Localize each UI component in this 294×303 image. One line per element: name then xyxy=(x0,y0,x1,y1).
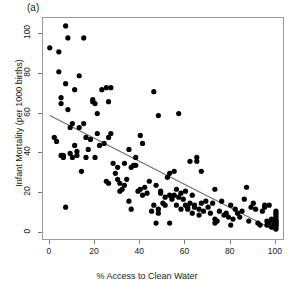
data-point xyxy=(176,111,181,116)
data-point xyxy=(133,155,138,160)
x-axis-label: % Access to Clean Water xyxy=(0,271,294,281)
data-point xyxy=(86,147,91,152)
data-point xyxy=(147,179,152,184)
data-point xyxy=(156,211,161,216)
data-point xyxy=(108,85,113,90)
panel-label: (a) xyxy=(27,2,39,13)
data-point xyxy=(104,85,109,90)
y-tick-label: 0 xyxy=(22,220,32,242)
data-point xyxy=(106,181,111,186)
data-point xyxy=(129,207,134,212)
data-point xyxy=(206,205,211,210)
data-point xyxy=(215,218,220,223)
data-point xyxy=(58,95,63,100)
data-point xyxy=(167,220,172,225)
data-point xyxy=(77,73,82,78)
data-point xyxy=(190,211,195,216)
data-point xyxy=(77,125,82,130)
data-point xyxy=(178,207,183,212)
data-point xyxy=(56,49,61,54)
data-point xyxy=(140,193,145,198)
data-point xyxy=(199,169,204,174)
y-tick-label: 40 xyxy=(22,140,32,162)
y-tick xyxy=(38,152,42,153)
x-tick-label: 80 xyxy=(215,246,245,256)
x-tick-label: 20 xyxy=(79,246,109,256)
data-point xyxy=(56,69,61,74)
y-tick xyxy=(38,73,42,74)
data-point xyxy=(101,141,106,146)
data-point xyxy=(61,153,66,158)
data-point xyxy=(228,222,233,227)
data-point xyxy=(174,187,179,192)
data-point xyxy=(167,171,172,176)
y-tick-label: 100 xyxy=(22,21,32,43)
data-point xyxy=(181,197,186,202)
x-tick xyxy=(275,240,276,244)
plot-area xyxy=(42,17,284,240)
data-point xyxy=(70,155,75,160)
data-point xyxy=(253,207,258,212)
x-tick xyxy=(49,240,50,244)
x-tick-label: 100 xyxy=(260,246,290,256)
data-point xyxy=(92,155,97,160)
data-point xyxy=(153,220,158,225)
y-tick xyxy=(38,33,42,34)
data-point xyxy=(88,137,93,142)
data-point xyxy=(153,183,158,188)
data-point xyxy=(185,207,190,212)
y-tick xyxy=(38,232,42,233)
data-point xyxy=(140,141,145,146)
data-point xyxy=(237,215,242,220)
data-point xyxy=(178,191,183,196)
data-point xyxy=(219,199,224,204)
data-point xyxy=(217,209,222,214)
data-point xyxy=(47,45,52,50)
data-point xyxy=(187,201,192,206)
data-point xyxy=(111,161,116,166)
data-point xyxy=(156,113,161,118)
data-point xyxy=(196,213,201,218)
data-point xyxy=(72,87,77,92)
data-point xyxy=(144,191,149,196)
data-point xyxy=(246,218,251,223)
data-point xyxy=(126,147,131,152)
data-point xyxy=(108,131,113,136)
data-point xyxy=(192,205,197,210)
data-point xyxy=(81,35,86,40)
data-point xyxy=(95,131,100,136)
data-point xyxy=(149,209,154,214)
data-point xyxy=(133,163,138,168)
data-point xyxy=(65,107,70,112)
data-point xyxy=(142,185,147,190)
data-point xyxy=(54,139,59,144)
data-point xyxy=(226,215,231,220)
y-tick xyxy=(38,192,42,193)
data-point xyxy=(74,153,79,158)
data-point xyxy=(138,187,143,192)
data-points-layer xyxy=(43,18,284,240)
y-tick-label: 20 xyxy=(22,180,32,202)
data-point xyxy=(251,201,256,206)
x-tick xyxy=(94,240,95,244)
data-point xyxy=(99,87,104,92)
data-point xyxy=(196,207,201,212)
data-point xyxy=(58,101,63,106)
data-point xyxy=(273,209,278,214)
data-point xyxy=(115,165,120,170)
data-point xyxy=(273,218,278,223)
data-point xyxy=(194,159,199,164)
data-point xyxy=(212,187,217,192)
x-tick xyxy=(184,240,185,244)
y-tick-label: 60 xyxy=(22,101,32,123)
data-point xyxy=(72,143,77,148)
data-point xyxy=(258,222,263,227)
data-point xyxy=(122,161,127,166)
data-point xyxy=(124,177,129,182)
data-point xyxy=(187,159,192,164)
scatter-plot-figure: (a) % Access to Clean Water Infant Morta… xyxy=(0,0,294,303)
y-tick xyxy=(38,113,42,114)
data-point xyxy=(63,81,68,86)
y-tick-label: 80 xyxy=(22,61,32,83)
x-tick-label: 40 xyxy=(124,246,154,256)
